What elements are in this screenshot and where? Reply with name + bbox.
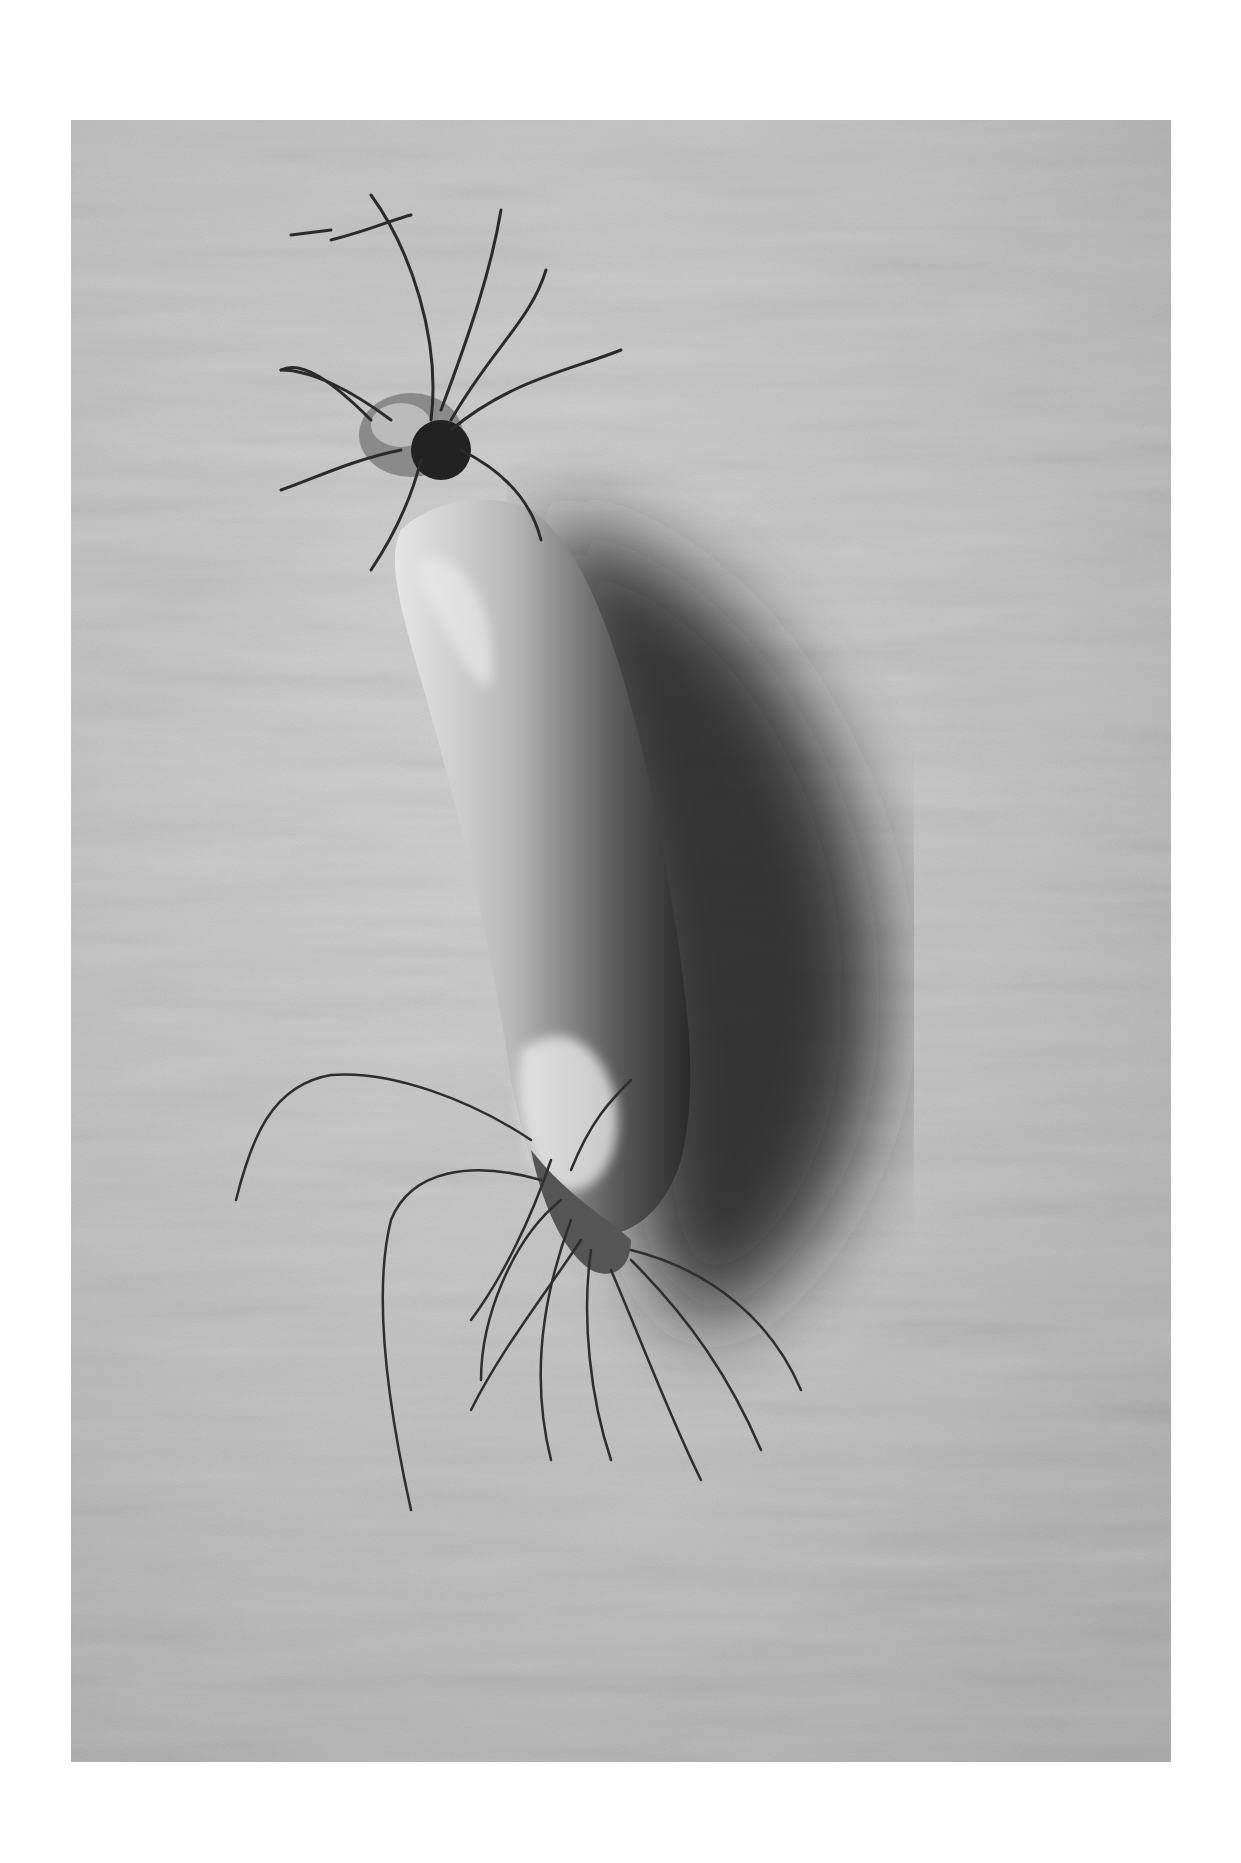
radish-illustration	[71, 120, 1171, 1762]
photograph: Black-and-white photograph of a single d…	[71, 120, 1171, 1762]
